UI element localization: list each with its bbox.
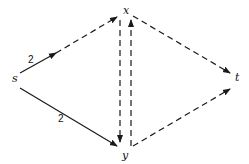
node-s-label: s — [12, 73, 18, 84]
edge-s-x — [20, 17, 117, 73]
edge-s-x-weight: 2 — [28, 55, 34, 65]
edge-s-y-weight: 2 — [58, 114, 64, 124]
edge-x-t — [133, 16, 230, 73]
graph-edges — [0, 0, 249, 164]
graph-diagram: s x y t 2 2 — [0, 0, 249, 164]
node-x-label: x — [123, 5, 129, 16]
node-y-label: y — [122, 150, 128, 161]
edge-y-t — [133, 89, 230, 146]
node-t-label: t — [235, 72, 239, 83]
edge-s-y — [20, 88, 117, 146]
